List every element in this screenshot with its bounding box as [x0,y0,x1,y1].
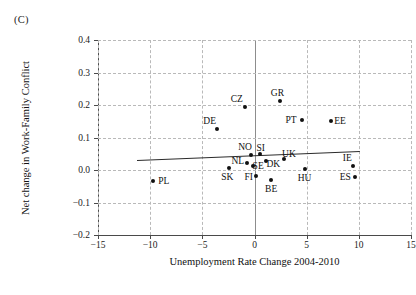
data-label-ie: IE [343,153,352,163]
x-tick-label-6: 15 [406,240,416,250]
data-point-de[interactable] [215,127,219,131]
y-tick-2 [94,170,98,171]
data-point-ie[interactable] [351,164,355,168]
x-tick-5 [359,235,360,239]
x-tick-1 [150,235,151,239]
data-point-ee[interactable] [329,119,333,123]
data-label-uk: UK [282,149,296,159]
data-label-si: SI [257,143,265,153]
data-point-nl[interactable] [245,161,249,165]
data-label-gr: GR [271,88,284,98]
gridline-y-3 [98,138,411,139]
y-tick-4 [94,105,98,106]
data-label-cz: CZ [231,94,243,104]
gridline-y-6 [98,40,411,41]
y-axis-title: Net change in Work-Family Conflict [18,40,32,235]
y-tick-label-5: 0.3 [78,68,90,78]
y-tick-3 [94,138,98,139]
x-tick-3 [255,235,256,239]
data-point-si[interactable] [258,152,262,156]
y-tick-5 [94,73,98,74]
x-tick-2 [202,235,203,239]
data-point-gr[interactable] [278,99,282,103]
x-tick-4 [307,235,308,239]
data-point-cz[interactable] [243,105,247,109]
data-point-es[interactable] [353,175,357,179]
data-label-no: NO [238,142,252,152]
data-label-sk: SK [221,172,233,182]
y-tick-label-1: −0.1 [73,198,90,208]
gridline-y-1 [98,203,411,204]
y-tick-label-2: 0.0 [78,165,90,175]
data-label-se: SE [253,161,264,171]
data-label-pl: PL [158,176,169,186]
plot-area: PLDESKCZNLNOSEFISIDKBEGRUKPTHUEEESIE [98,40,411,235]
gridline-y-5 [98,73,411,74]
y-tick-label-0: −0.2 [73,230,90,240]
panel-label: (C) [14,14,29,25]
y-tick-0 [94,235,98,236]
data-label-es: ES [340,172,351,182]
x-tick-label-2: −5 [197,240,207,250]
x-tick-label-1: −10 [143,240,158,250]
gridline-x-6 [411,40,412,235]
data-label-dk: DK [266,159,280,169]
data-point-sk[interactable] [227,166,231,170]
data-point-pt[interactable] [300,118,304,122]
x-tick-label-3: 0 [252,240,257,250]
x-tick-label-4: 5 [304,240,309,250]
data-point-pl[interactable] [151,179,155,183]
y-tick-label-3: 0.1 [78,133,90,143]
y-tick-1 [94,203,98,204]
chart-root: (C) Net change in Work-Family Conflict P… [0,0,416,295]
y-tick-label-4: 0.2 [78,100,90,110]
data-point-fi[interactable] [254,174,258,178]
data-point-hu[interactable] [303,167,307,171]
x-tick-0 [98,235,99,239]
y-axis-title-text: Net change in Work-Family Conflict [20,60,31,214]
data-label-ee: EE [334,116,346,126]
data-label-pt: PT [285,115,296,125]
data-label-be: BE [265,184,277,194]
x-axis-title: Unemployment Rate Change 2004-2010 [98,256,411,267]
data-label-de: DE [203,116,216,126]
y-tick-6 [94,40,98,41]
data-point-no[interactable] [249,153,253,157]
data-label-fi: FI [245,172,253,182]
gridline-y-4 [98,105,411,106]
x-tick-6 [411,235,412,239]
x-tick-label-0: −15 [91,240,106,250]
y-tick-label-6: 0.4 [78,35,90,45]
x-tick-label-5: 10 [354,240,364,250]
data-label-nl: NL [231,156,244,166]
data-label-hu: HU [298,173,312,183]
data-point-be[interactable] [269,178,273,182]
